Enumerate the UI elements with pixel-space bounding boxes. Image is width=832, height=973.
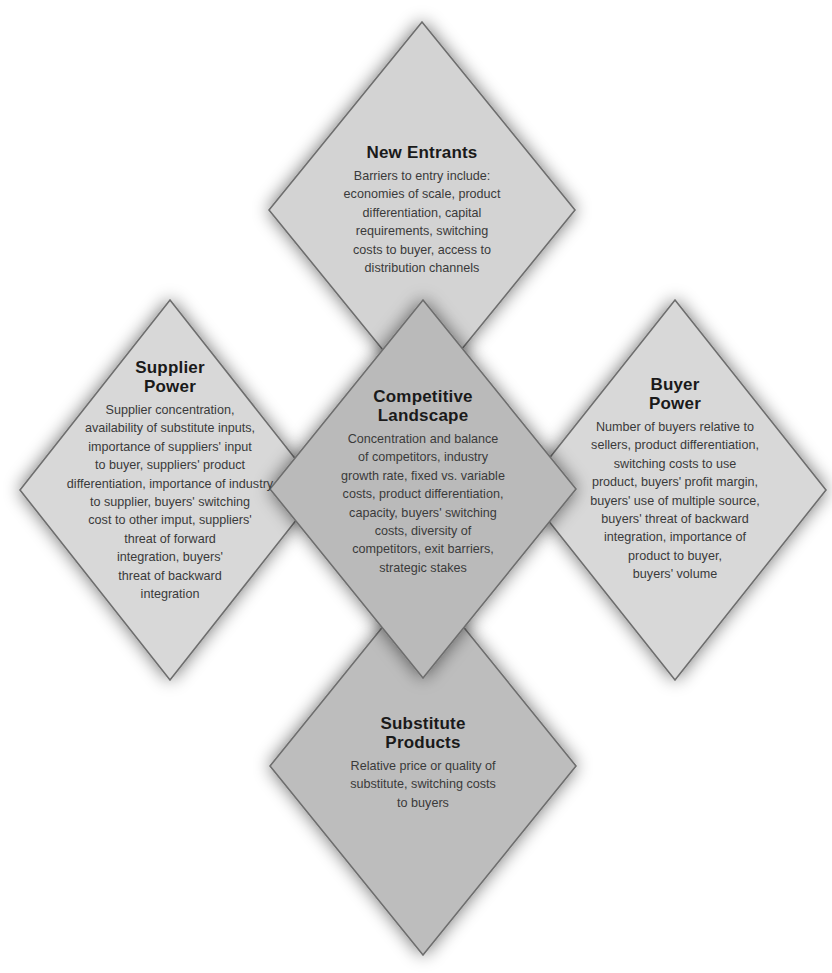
substitute-products-title: Substitute Products — [323, 714, 523, 752]
competitive-landscape-title: Competitive Landscape — [318, 387, 528, 425]
supplier-power-description: Supplier concentration, availability of … — [35, 401, 305, 603]
new-entrants-title: New Entrants — [312, 143, 532, 162]
supplier-power-title: Supplier Power — [35, 358, 305, 396]
competitive-landscape-description: Concentration and balance of competitors… — [318, 430, 528, 577]
competitive-landscape-label: Competitive Landscape Concentration and … — [318, 387, 528, 577]
five-forces-diagram: New Entrants Barriers to entry include: … — [0, 0, 832, 973]
supplier-power-label: Supplier Power Supplier concentration, a… — [35, 358, 305, 603]
new-entrants-description: Barriers to entry include: economies of … — [312, 167, 532, 277]
buyer-power-title: Buyer Power — [575, 375, 775, 413]
buyer-power-label: Buyer Power Number of buyers relative to… — [575, 375, 775, 584]
substitute-products-description: Relative price or quality of substitute,… — [323, 757, 523, 812]
new-entrants-label: New Entrants Barriers to entry include: … — [312, 143, 532, 277]
substitute-products-label: Substitute Products Relative price or qu… — [323, 714, 523, 812]
buyer-power-description: Number of buyers relative to sellers, pr… — [575, 418, 775, 584]
